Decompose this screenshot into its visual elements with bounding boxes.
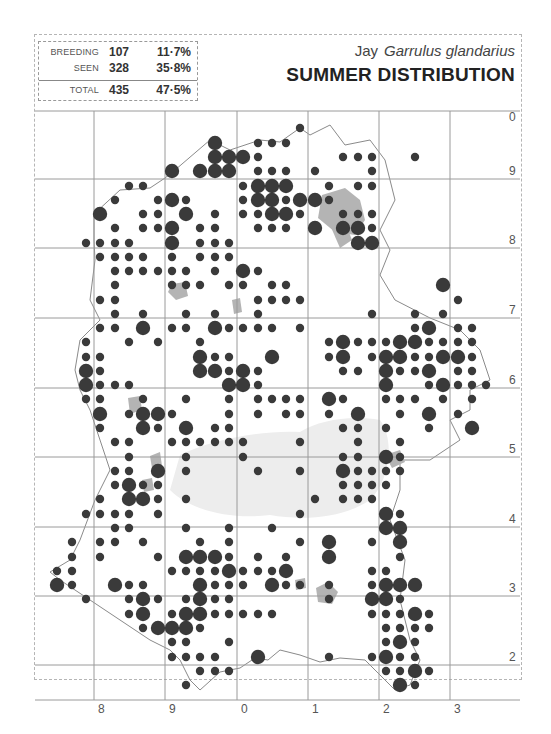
seen-dot: [111, 524, 119, 532]
seen-dot: [82, 395, 90, 403]
x-axis-label: 8: [98, 702, 105, 716]
seen-dot: [368, 538, 376, 546]
seen-dot: [96, 324, 104, 332]
seen-dot: [154, 338, 162, 346]
seen-dot: [111, 267, 119, 275]
breeding-dot: [379, 650, 393, 664]
breeding-dot: [179, 207, 193, 221]
breeding-dot: [136, 321, 150, 335]
seen-dot: [411, 153, 419, 161]
seen-dot: [382, 424, 390, 432]
seen-dot: [68, 567, 76, 575]
distribution-map: [0, 0, 551, 734]
seen-dot: [411, 624, 419, 632]
y-axis-label: 6: [509, 373, 516, 387]
seen-dot: [196, 624, 204, 632]
seen-dot: [139, 224, 147, 232]
seen-dot: [268, 610, 276, 618]
seen-dot: [111, 310, 119, 318]
seen-dot: [411, 653, 419, 661]
seen-dot: [396, 595, 404, 603]
seen-dot: [425, 624, 433, 632]
species-common-name: Jay: [355, 42, 378, 59]
seen-dot: [396, 624, 404, 632]
seen-dot: [382, 667, 390, 675]
seen-dot: [225, 353, 233, 361]
y-axis-label: 0: [509, 110, 516, 124]
seen-dot: [125, 239, 133, 247]
breeding-dot: [165, 236, 179, 250]
breeding-dot: [393, 578, 407, 592]
seen-dot: [368, 581, 376, 589]
y-axis-label: 4: [509, 512, 516, 526]
breeding-count: 107: [109, 44, 129, 60]
breeding-dot: [465, 421, 479, 435]
seen-dot: [268, 324, 276, 332]
seen-dot: [239, 610, 247, 618]
seen-dot: [296, 124, 304, 132]
seen-dot: [182, 267, 190, 275]
seen-dot: [339, 153, 347, 161]
seen-dot: [368, 610, 376, 618]
breeding-dot: [379, 592, 393, 606]
seen-dot: [96, 353, 104, 361]
seen-dot: [182, 681, 190, 689]
seen-dot: [411, 395, 419, 403]
seen-dot: [182, 524, 190, 532]
breeding-dot: [322, 392, 336, 406]
breeding-dot: [379, 364, 393, 378]
seen-dot: [211, 595, 219, 603]
seen-dot: [154, 196, 162, 204]
seen-dot: [111, 224, 119, 232]
breeding-dot: [408, 664, 422, 678]
breeding-dot: [336, 221, 350, 235]
seen-dot: [254, 553, 262, 561]
seen-dot: [254, 410, 262, 418]
seen-dot: [111, 253, 119, 261]
breeding-dot: [393, 521, 407, 535]
seen-dot: [111, 281, 119, 289]
seen-dot: [254, 296, 262, 304]
map-title: SUMMER DISTRIBUTION: [286, 64, 515, 86]
seen-dot: [168, 653, 176, 661]
seen-dot: [182, 495, 190, 503]
seen-dot: [182, 281, 190, 289]
seen-dot: [254, 395, 262, 403]
seen-dot: [125, 524, 133, 532]
seen-dot: [254, 367, 262, 375]
seen-dot: [396, 510, 404, 518]
seen-dot: [296, 538, 304, 546]
seen-dot: [196, 567, 204, 575]
seen-dot: [211, 239, 219, 247]
breeding-dot: [265, 207, 279, 221]
seen-dot: [211, 267, 219, 275]
seen-dot: [254, 567, 262, 575]
seen-dot: [196, 653, 204, 661]
seen-dot: [439, 310, 447, 318]
breeding-dot: [393, 635, 407, 649]
seen-dot: [382, 567, 390, 575]
seen-dot: [211, 353, 219, 361]
seen-dot: [211, 438, 219, 446]
seen-dot: [425, 353, 433, 361]
seen-dot: [368, 310, 376, 318]
seen-dot: [196, 224, 204, 232]
seen-dot: [139, 182, 147, 190]
seen-dot: [268, 524, 276, 532]
breeding-dot: [379, 350, 393, 364]
breeding-dot: [208, 550, 222, 564]
breeding-dot: [336, 335, 350, 349]
breeding-dot: [422, 364, 436, 378]
breeding-percent: 11·7%: [157, 44, 191, 60]
seen-dot: [96, 553, 104, 561]
y-axis-label: 8: [509, 233, 516, 247]
breeding-dot: [108, 578, 122, 592]
seen-dot: [296, 438, 304, 446]
seen-dot: [296, 510, 304, 518]
seen-dot: [211, 424, 219, 432]
x-axis-label: 9: [169, 702, 176, 716]
seen-dot: [311, 495, 319, 503]
x-axis-label: 2: [383, 702, 390, 716]
seen-dot: [154, 495, 162, 503]
breeding-dot: [436, 278, 450, 292]
